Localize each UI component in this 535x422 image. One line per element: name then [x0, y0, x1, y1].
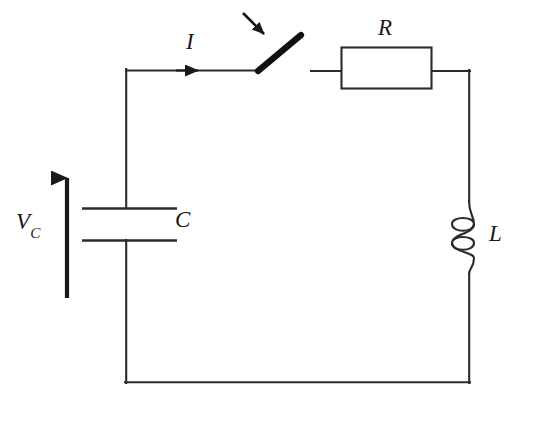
capacitor-symbol: [82, 209, 177, 241]
inductor-label: L: [489, 222, 502, 245]
capacitor-voltage-label-subscript: C: [30, 224, 40, 241]
inductor-coil: [452, 201, 474, 274]
inductor-loop-1: [452, 201, 474, 231]
circuit-diagram-canvas: R I C L VC: [0, 0, 535, 422]
switch-blade[interactable]: [258, 35, 301, 71]
capacitor-voltage-label-main: V: [16, 209, 30, 234]
capacitor-voltage-label: VC: [16, 210, 40, 237]
switch-pointer-arrow: [243, 13, 264, 34]
resistor-box: [342, 48, 432, 89]
current-label: I: [186, 30, 194, 53]
resistor-label: R: [378, 16, 392, 39]
circuit-schematic-svg: [0, 0, 535, 422]
switch-symbol[interactable]: [258, 35, 301, 71]
capacitor-label: C: [175, 208, 190, 231]
